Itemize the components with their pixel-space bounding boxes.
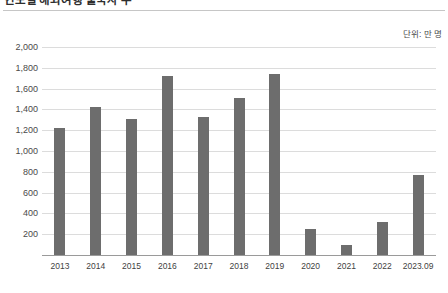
bar <box>413 175 424 255</box>
y-axis-tick-label: 600 <box>2 188 38 198</box>
y-axis-tick-label: 2,000 <box>2 42 38 52</box>
y-axis-tick-label: 400 <box>2 208 38 218</box>
bar <box>377 222 388 255</box>
x-axis-tick-label: 2020 <box>301 261 320 271</box>
y-axis-tick-label: 1,200 <box>2 125 38 135</box>
gridline <box>42 47 436 48</box>
x-axis-tick-label: 2018 <box>230 261 249 271</box>
bar <box>341 245 352 255</box>
bar <box>305 229 316 255</box>
y-axis-tick-label: 1,000 <box>2 146 38 156</box>
bar <box>234 98 245 255</box>
x-axis-tick-label: 2023.09 <box>403 261 434 271</box>
x-axis-tick-label: 2013 <box>50 261 69 271</box>
bar <box>90 107 101 255</box>
bar <box>162 76 173 255</box>
bar <box>198 117 209 255</box>
bar-chart: 2,0001,8001,6001,4001,2001,0008006004002… <box>0 0 448 293</box>
x-axis-tick-label: 2014 <box>86 261 105 271</box>
gridline <box>42 89 436 90</box>
y-axis-tick-label: 1,800 <box>2 63 38 73</box>
x-axis-tick-label: 2015 <box>122 261 141 271</box>
bar <box>54 128 65 255</box>
gridline <box>42 68 436 69</box>
bar <box>126 119 137 255</box>
x-axis-tick-label: 2022 <box>373 261 392 271</box>
y-axis: 2,0001,8001,6001,4001,2001,0008006004002… <box>0 0 38 293</box>
bar <box>269 74 280 255</box>
y-axis-tick-label: 1,600 <box>2 84 38 94</box>
y-axis-tick-label: 200 <box>2 229 38 239</box>
x-axis-tick-label: 2021 <box>337 261 356 271</box>
x-axis-line <box>42 255 436 256</box>
x-axis-tick-label: 2019 <box>265 261 284 271</box>
y-axis-tick-label: 1,400 <box>2 104 38 114</box>
x-axis-tick-label: 2016 <box>158 261 177 271</box>
x-axis-tick-label: 2017 <box>194 261 213 271</box>
y-axis-tick-label: 800 <box>2 167 38 177</box>
